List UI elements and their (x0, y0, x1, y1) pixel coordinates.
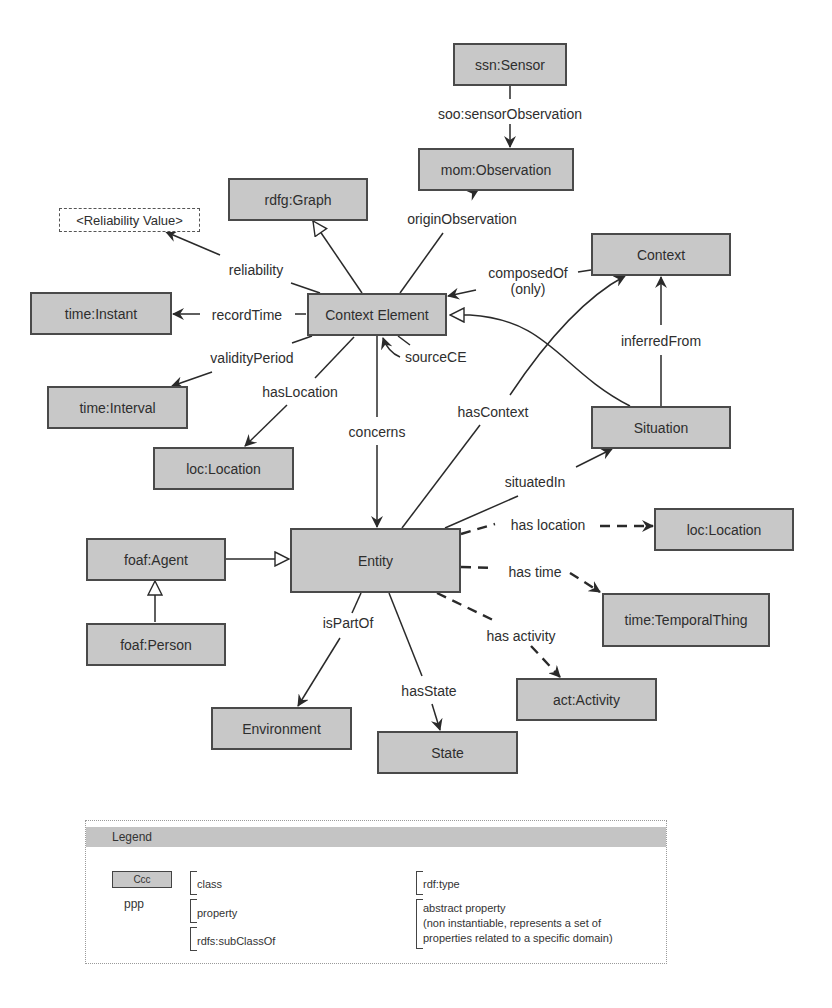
legend-abstract-label-2: (non instantiable, represents a set of (423, 916, 601, 930)
node-foaf-person: foaf:Person (86, 623, 226, 666)
edge-label-has-activity: has activity (484, 628, 557, 644)
node-mom-observation: mom:Observation (418, 148, 574, 191)
edge-label-has-location-abstract: has location (509, 517, 588, 533)
node-situation: Situation (591, 406, 731, 449)
edge-label-source-ce: sourceCE (403, 349, 468, 365)
node-reliability-value: <Reliability Value> (59, 208, 200, 232)
edge-label-composed-of: composedOf (486, 265, 569, 281)
edge-label-inferred-from: inferredFrom (619, 333, 703, 349)
legend-bracket (416, 899, 423, 949)
node-act-activity: act:Activity (516, 678, 657, 721)
edge-label-is-part-of: isPartOf (321, 615, 376, 631)
edge-label-has-time: has time (507, 564, 564, 580)
edge-label-situated-in: situatedIn (503, 474, 568, 490)
legend-bracket (416, 871, 423, 895)
edge-label-origin-observation: originObservation (405, 211, 519, 227)
node-context-element: Context Element (307, 293, 447, 336)
legend-property-label: property (197, 906, 237, 920)
legend-bracket (190, 871, 197, 895)
legend-abstract-label-1: abstract property (423, 901, 506, 915)
legend-title: Legend (86, 827, 666, 847)
node-state: State (377, 731, 518, 774)
node-entity: Entity (290, 528, 461, 593)
edge-label-has-context: hasContext (456, 404, 531, 420)
edge-label-sensor-observation: soo:sensorObservation (436, 106, 584, 122)
node-rdfg-graph: rdfg:Graph (228, 178, 368, 221)
edge-label-concerns: concerns (347, 424, 408, 440)
legend-property-sample: ppp (124, 897, 144, 911)
legend-subclass-label: rdfs:subClassOf (197, 934, 275, 948)
node-time-interval: time:Interval (47, 386, 188, 429)
legend-class-label: class (197, 877, 222, 891)
node-ssn-sensor: ssn:Sensor (453, 43, 567, 86)
edge-label-composed-of-qualifier: (only) (508, 281, 547, 297)
node-context: Context (591, 233, 731, 276)
legend-class-sample: Ccc (112, 871, 172, 888)
edge-label-has-state: hasState (399, 683, 458, 699)
legend: Legend Ccc class ppp property rdfs:subCl… (85, 820, 667, 964)
node-time-instant: time:Instant (30, 292, 172, 335)
edge-label-reliability: reliability (227, 262, 285, 278)
legend-bracket (190, 899, 197, 923)
edge-label-has-location: hasLocation (260, 384, 340, 400)
node-time-temporal-thing: time:TemporalThing (602, 593, 770, 647)
legend-rdf-type-label: rdf:type (423, 877, 460, 891)
node-loc-location-left: loc:Location (153, 447, 294, 490)
legend-abstract-label-3: properties related to a specific domain) (423, 931, 613, 945)
node-environment: Environment (211, 707, 352, 750)
legend-bracket (190, 927, 197, 951)
node-loc-location-right: loc:Location (654, 508, 794, 551)
edge-label-record-time: recordTime (210, 307, 284, 323)
edge-label-validity-period: validityPeriod (208, 350, 295, 366)
node-foaf-agent: foaf:Agent (86, 538, 226, 581)
